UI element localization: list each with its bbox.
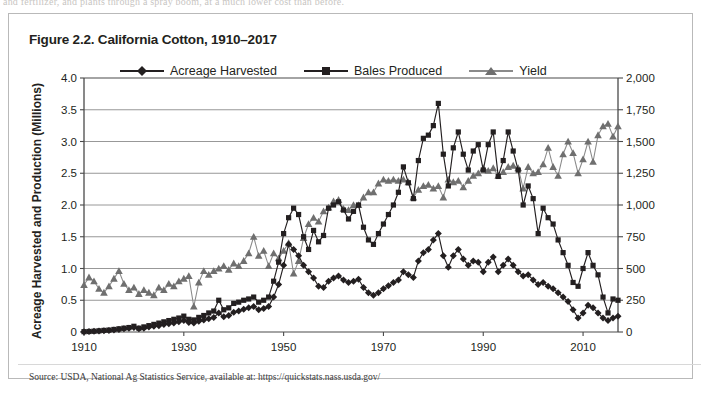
y-tick-right: 1,500 xyxy=(626,136,655,148)
y-tick-right: 1,250 xyxy=(626,167,655,179)
x-tick-label: 1950 xyxy=(271,341,297,353)
y-tick-left: 3.0 xyxy=(61,136,77,148)
y-tick-right: 500 xyxy=(626,263,645,275)
figure-page: and fertilizer, and plants through a spr… xyxy=(0,0,701,393)
y-tick-left: 2.0 xyxy=(61,199,77,211)
y-tick-left: 4.0 xyxy=(61,72,77,84)
chart-svg: 00.51.01.52.02.53.03.54.002505007501,000… xyxy=(0,0,701,393)
series-bales-produced xyxy=(81,101,620,334)
chart-plot-area: 00.51.01.52.02.53.03.54.002505007501,000… xyxy=(0,0,701,393)
y-tick-left: 2.5 xyxy=(61,167,77,179)
x-tick-label: 1910 xyxy=(71,341,97,353)
y-tick-left: 1.5 xyxy=(61,231,77,243)
x-tick-label: 1930 xyxy=(171,341,197,353)
y-tick-right: 250 xyxy=(626,294,645,306)
y-tick-left: 0.5 xyxy=(61,294,77,306)
y-tick-right: 0 xyxy=(626,326,632,338)
x-tick-label: 1990 xyxy=(470,341,496,353)
y-tick-left: 0 xyxy=(71,326,77,338)
x-tick-label: 1970 xyxy=(371,341,397,353)
y-tick-left: 3.5 xyxy=(61,104,77,116)
x-tick-label: 2010 xyxy=(570,341,596,353)
y-tick-left: 1.0 xyxy=(61,263,77,275)
y-tick-right: 2,000 xyxy=(626,72,655,84)
y-tick-right: 1,750 xyxy=(626,104,655,116)
y-tick-right: 750 xyxy=(626,231,645,243)
y-tick-right: 1,000 xyxy=(626,199,655,211)
